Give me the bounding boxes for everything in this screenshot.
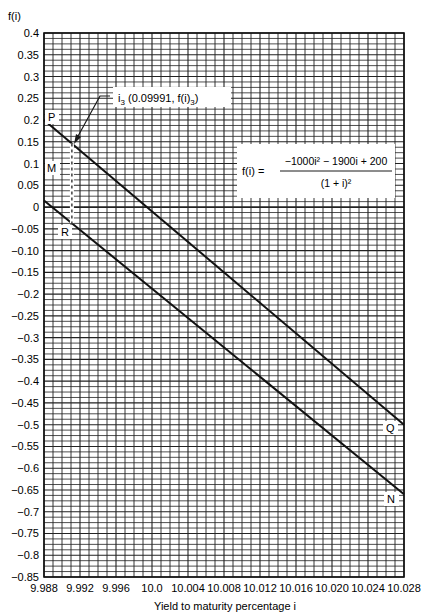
y-tick-label: −0.8 (17, 549, 39, 561)
y-axis-ticks: 0.40.350.30.250.20.150.10.050−0.05−0.10−… (11, 27, 39, 583)
y-tick-label: −0.55 (11, 440, 39, 452)
y-tick-label: 0.25 (18, 92, 39, 104)
y-tick-label: −0.25 (11, 310, 39, 322)
x-tick-label: 10.016 (279, 582, 313, 594)
y-tick-label: −0.45 (11, 397, 39, 409)
x-tick-label: 10.0 (141, 582, 162, 594)
y-tick-label: −0.65 (11, 484, 39, 496)
label-R: R (61, 226, 69, 238)
y-tick-label: −0.2 (17, 288, 39, 300)
y-tick-label: −0.75 (11, 527, 39, 539)
y-tick-label: −0.10 (11, 245, 39, 257)
x-tick-label: 10.004 (171, 582, 205, 594)
x-tick-label: 10.028 (387, 582, 421, 594)
y-tick-label: −0.05 (11, 223, 39, 235)
y-tick-label: 0.3 (24, 71, 39, 83)
arrow-line (77, 96, 110, 138)
y-tick-label: 0.2 (24, 114, 39, 126)
y-tick-label: −0.4 (17, 375, 39, 387)
chart: 0.40.350.30.250.20.150.10.050−0.05−0.10−… (0, 0, 428, 616)
formula-box: f(i) = −1000i² − 1900i + 200 (1 + i)² (237, 144, 395, 198)
y-tick-label: 0.15 (18, 136, 39, 148)
y-tick-label: −0.3 (17, 332, 39, 344)
x-tick-label: 9.996 (102, 582, 130, 594)
y-tick-label: 0.35 (18, 49, 39, 61)
x-tick-label: 10.012 (243, 582, 277, 594)
y-tick-label: −0.5 (17, 419, 39, 431)
label-Q: Q (386, 422, 395, 434)
x-axis-label: Yield to maturity percentage i (154, 600, 296, 612)
y-tick-label: −0.7 (17, 506, 39, 518)
y-axis-label: f(i) (8, 10, 21, 22)
x-tick-label: 9.988 (30, 582, 58, 594)
x-tick-label: 10.024 (351, 582, 385, 594)
grid (44, 33, 404, 577)
label-M: M (47, 162, 56, 174)
y-tick-label: 0.1 (24, 158, 39, 170)
x-tick-label: 10.020 (315, 582, 349, 594)
y-tick-label: 0 (33, 201, 39, 213)
y-tick-label: −0.35 (11, 353, 39, 365)
formula-denominator: (1 + i)² (321, 177, 352, 189)
label-P: P (48, 111, 55, 123)
x-tick-label: 10.008 (207, 582, 241, 594)
formula-numerator: −1000i² − 1900i + 200 (285, 155, 388, 167)
y-tick-label: −0.15 (11, 266, 39, 278)
y-tick-label: 0.05 (18, 179, 39, 191)
x-axis-ticks: 9.9889.9929.99610.010.00410.00810.01210.… (30, 582, 421, 594)
label-N: N (387, 493, 395, 505)
y-tick-label: 0.4 (24, 27, 39, 39)
y-tick-label: −0.6 (17, 462, 39, 474)
formula-lhs: f(i) = (242, 165, 264, 177)
x-tick-label: 9.992 (66, 582, 94, 594)
